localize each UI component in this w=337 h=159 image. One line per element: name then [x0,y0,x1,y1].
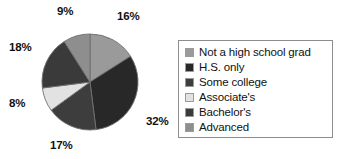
legend-item-label: Not a high school grad [199,46,311,59]
pie-chart-figure: 9% 16% 18% 8% 17% 32% Not a high school … [0,0,337,159]
legend-item-label: H.S. only [199,61,244,74]
pie-label-hs-only: 32% [146,115,169,127]
pie-chart-svg [0,0,180,159]
legend-swatch-icon [185,78,194,87]
legend-item-hs-only[interactable]: H.S. only [185,60,332,75]
pie-label-bachelors: 18% [9,41,32,53]
legend-item-label: Advanced [199,121,249,134]
legend-item-label: Bachelor's [199,106,251,119]
pie-label-associates: 8% [9,97,25,109]
legend-item-associates[interactable]: Associate's [185,90,332,105]
pie-chart-area: 9% 16% 18% 8% 17% 32% [0,0,180,159]
pie-slices-group [42,34,138,130]
legend-swatch-icon [185,123,194,132]
legend-swatch-icon [185,63,194,72]
pie-label-some-college: 17% [50,139,73,151]
pie-label-not-hs-grad: 16% [117,10,140,22]
legend-item-advanced[interactable]: Advanced [185,120,332,135]
legend-swatch-icon [185,93,194,102]
legend-item-label: Some college [199,76,267,89]
legend-swatch-icon [185,108,194,117]
legend-item-some-college[interactable]: Some college [185,75,332,90]
legend-swatch-icon [185,48,194,57]
chart-legend: Not a high school grad H.S. only Some co… [178,40,333,138]
legend-item-not-a-high-school-grad[interactable]: Not a high school grad [185,45,332,60]
legend-item-bachelors[interactable]: Bachelor's [185,105,332,120]
legend-item-label: Associate's [199,91,255,104]
pie-label-advanced: 9% [57,5,73,17]
